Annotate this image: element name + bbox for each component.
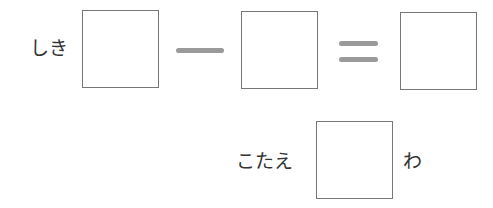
operand-1-box[interactable] — [82, 10, 159, 88]
answer-box[interactable] — [316, 121, 393, 199]
answer-unit: わ — [403, 152, 422, 171]
result-box[interactable] — [400, 12, 477, 90]
operand-2-box[interactable] — [241, 11, 318, 89]
equation-label: しき — [30, 39, 68, 58]
answer-label: こたえ — [236, 152, 293, 171]
minus-sign-icon — [176, 48, 224, 53]
